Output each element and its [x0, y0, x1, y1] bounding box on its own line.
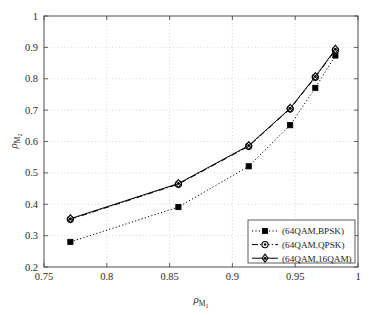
y-axis-tick-labels: 0.20.30.40.50.60.70.80.91 — [25, 11, 39, 273]
y-tick-label: 0.7 — [25, 105, 38, 116]
chart-plot: 0.750.80.850.90.951 0.20.30.40.50.60.70.… — [0, 0, 372, 315]
y-tick-label: 0.2 — [25, 262, 38, 273]
x-axis-title-subsub: 1 — [205, 303, 208, 309]
y-tick-label: 0.8 — [25, 73, 38, 84]
y-tick-label: 0.3 — [25, 230, 38, 241]
data-point-marker — [246, 164, 251, 169]
legend-label: (64QAM,16QAM) — [282, 254, 352, 264]
data-point-marker — [176, 204, 181, 209]
data-point-marker — [313, 85, 318, 90]
data-point-marker — [288, 123, 293, 128]
y-tick-label: 1 — [33, 11, 38, 22]
data-point-marker-dot — [289, 107, 292, 110]
legend[interactable]: (64QAM,BPSK)(64QAM,QPSK)(64QAM,16QAM) — [248, 220, 355, 264]
x-tick-label: 0.75 — [35, 271, 53, 282]
x-tick-label: 0.95 — [286, 271, 304, 282]
y-tick-label: 0.4 — [25, 199, 39, 210]
x-tick-label: 0.85 — [160, 271, 178, 282]
y-tick-label: 0.6 — [25, 136, 38, 147]
y-tick-label: 0.5 — [25, 167, 38, 178]
y-tick-label: 0.9 — [25, 42, 38, 53]
x-tick-label: 0.8 — [100, 271, 113, 282]
legend-label: (64QAM,QPSK) — [282, 240, 345, 250]
legend-marker-dot — [264, 243, 267, 246]
data-point-marker-dot — [177, 182, 180, 185]
figure-canvas: 0.750.80.850.90.951 0.20.30.40.50.60.70.… — [0, 0, 372, 315]
data-point-marker-dot — [314, 75, 317, 78]
x-tick-label: 1 — [355, 271, 360, 282]
x-tick-label: 0.9 — [226, 271, 239, 282]
legend-label: (64QAM,BPSK) — [282, 226, 344, 236]
legend-marker — [262, 228, 267, 233]
data-point-marker-dot — [334, 48, 337, 51]
data-point-marker — [68, 239, 73, 244]
legend-items: (64QAM,BPSK)(64QAM,QPSK)(64QAM,16QAM) — [252, 226, 352, 263]
y-axis-title-subsub: 2 — [17, 134, 23, 137]
data-point-marker-dot — [247, 144, 250, 147]
legend-marker-dot — [264, 257, 267, 260]
data-point-marker-dot — [69, 217, 72, 220]
